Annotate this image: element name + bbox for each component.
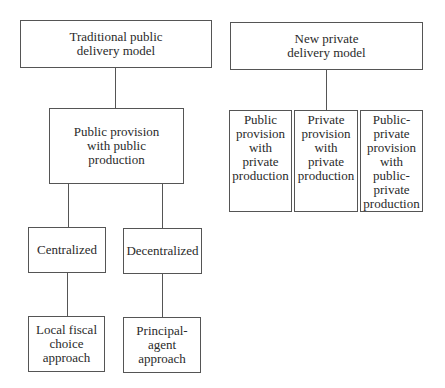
connector-public-provision-to-centralized (68, 184, 69, 227)
public-provision-private-production-label: Public provision with private production (232, 113, 288, 183)
public-private-provision-production-box: Public- private provision with public- p… (360, 110, 423, 212)
centralized-box: Centralized (28, 227, 106, 273)
local-fiscal-choice-approach-label: Local fiscal choice approach (36, 323, 97, 365)
traditional-public-delivery-model-box: Traditional public delivery model (20, 20, 212, 68)
traditional-public-delivery-model-label: Traditional public delivery model (69, 30, 162, 58)
public-provision-private-production-box: Public provision with private production (229, 110, 292, 212)
connector-traditional-to-public-provision (115, 68, 116, 108)
decentralized-box: Decentralized (123, 228, 202, 274)
centralized-label: Centralized (37, 243, 97, 257)
decentralized-label: Decentralized (126, 244, 198, 258)
local-fiscal-choice-approach-box: Local fiscal choice approach (28, 316, 105, 372)
connector-decentralized-to-principal-agent (162, 274, 163, 317)
public-provision-public-production-box: Public provision with public production (49, 108, 184, 184)
connector-public-provision-to-decentralized (162, 184, 163, 228)
new-private-delivery-model-label: New private delivery model (287, 32, 365, 60)
principal-agent-approach-box: Principal- agent approach (123, 317, 201, 373)
private-provision-private-production-box: Private provision with private productio… (294, 110, 358, 212)
public-provision-public-production-label: Public provision with public production (74, 125, 160, 167)
connector-centralized-to-local-fiscal (67, 273, 68, 316)
private-provision-private-production-label: Private provision with private productio… (298, 113, 354, 183)
principal-agent-approach-label: Principal- agent approach (136, 324, 187, 366)
new-private-delivery-model-box: New private delivery model (230, 22, 423, 70)
connector-private-model-to-children (326, 70, 327, 110)
public-private-provision-production-label: Public- private provision with public- p… (363, 113, 419, 211)
